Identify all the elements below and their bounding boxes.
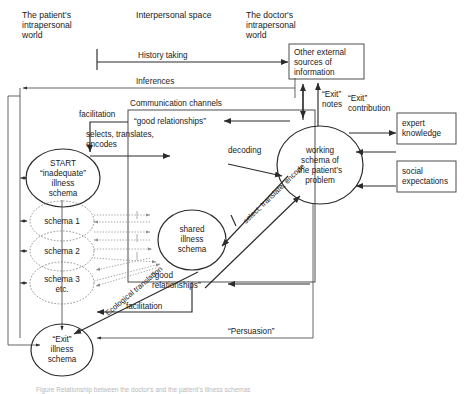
node-line: sources of <box>294 58 332 67</box>
header-line: world <box>21 30 43 40</box>
node-line: schema <box>48 355 77 364</box>
node-line: schema of <box>301 156 339 165</box>
persuasion-label: “Persuasion” <box>228 327 275 336</box>
header-interpersonal-space: Interpersonal space <box>136 10 212 20</box>
node-line: “inadequate” <box>40 169 86 178</box>
header-line: The patient's <box>22 10 71 20</box>
figure-caption: Figure Relationship between the doctor's… <box>36 386 251 394</box>
node-line: illness <box>181 235 204 244</box>
facilitation-bottom-label: facilitation <box>126 302 163 311</box>
exit-contribution-label: “Exit” <box>348 94 367 103</box>
illness-schema-diagram: The patient's intrapersonal world Interp… <box>0 0 466 394</box>
header-line: The doctor's <box>246 10 293 20</box>
good-relationships-top-label: “good relationships” <box>134 117 206 126</box>
node-line: schema <box>49 189 78 198</box>
exit-contribution-label: contribution <box>348 104 391 113</box>
node-line: “Exit” <box>52 335 71 344</box>
exit-notes-label: “Exit” <box>322 90 341 99</box>
node-line: problem <box>305 176 335 185</box>
header-line: Interpersonal space <box>136 10 212 20</box>
exit-notes-label: notes <box>322 100 342 109</box>
node-line: Other external <box>294 48 346 57</box>
node-line: illness <box>51 345 74 354</box>
node-line: START <box>50 159 76 168</box>
decoding-label: decoding <box>228 146 262 155</box>
selects-translates-label: selects, translates, <box>86 130 154 139</box>
node-line: social <box>402 167 423 176</box>
node-line: expert <box>402 119 425 128</box>
header-line: intrapersonal <box>22 20 72 30</box>
inferences-label: Inferences <box>136 77 174 86</box>
communication-channels-label: Communication channels <box>130 99 222 108</box>
facilitation-top-label: facilitation <box>79 110 116 119</box>
node-line: expectations <box>402 177 448 186</box>
node-line: illness <box>52 179 75 188</box>
header-line: world <box>245 30 267 40</box>
history-taking-label: History taking <box>138 51 188 60</box>
node-line: schema <box>178 245 207 254</box>
node-line: knowledge <box>402 129 442 138</box>
node-line: working <box>305 146 335 155</box>
node-line: shared <box>179 225 204 234</box>
header-line: intrapersonal <box>246 20 296 30</box>
node-line: information <box>294 68 335 77</box>
encodes-label: encodes <box>86 140 117 149</box>
